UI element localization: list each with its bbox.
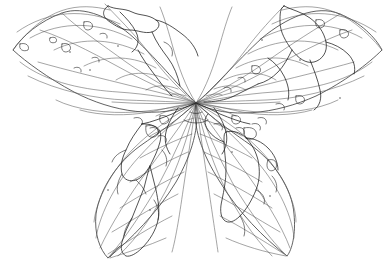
map-figure: Butterfly world map projection Four-lobe… [0, 0, 386, 262]
butterfly-map-svg [0, 0, 386, 262]
